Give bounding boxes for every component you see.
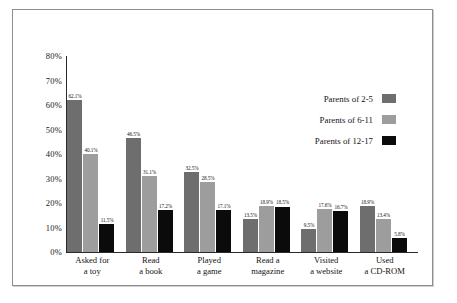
legend-item-2[interactable]: Parents of 6-11 (248, 109, 396, 130)
bar-value-label: 5.8% (394, 232, 404, 237)
bar-column: 40.1% (83, 56, 98, 252)
bar-column: 18.9% (360, 56, 375, 252)
bar-value-label: 46.5% (127, 132, 140, 137)
bar[interactable] (184, 172, 199, 252)
bar-group: 18.9%13.4%5.8% (360, 56, 419, 252)
x-axis-line (66, 252, 418, 253)
y-axis-tick: 0% (18, 247, 62, 257)
bar-column: 13.5% (243, 56, 258, 252)
bar-group: 13.5%18.9%18.5% (243, 56, 302, 252)
bar[interactable] (301, 229, 316, 252)
bar[interactable] (216, 210, 231, 252)
bar-value-label: 18.5% (276, 200, 289, 205)
bar-column: 17.6% (317, 56, 332, 252)
legend-label: Parents of 6-11 (320, 115, 373, 125)
bar-value-label: 17.6% (319, 203, 332, 208)
bar-value-label: 18.9% (361, 200, 374, 205)
legend-color-swatch (382, 94, 396, 103)
legend-label: Parents of 2-5 (324, 94, 373, 104)
bar-column: 31.1% (142, 56, 157, 252)
y-axis-tick: 40% (18, 149, 62, 159)
legend-label: Parents of 12-17 (315, 136, 373, 146)
bar-value-label: 32.5% (186, 166, 199, 171)
bar-column: 13.4% (376, 56, 391, 252)
bar-column: 17.2% (158, 56, 173, 252)
bar-value-label: 17.1% (218, 204, 231, 209)
bar-group: 32.5%28.5%17.1% (184, 56, 243, 252)
bar[interactable] (158, 210, 173, 252)
bar[interactable] (243, 219, 258, 252)
bar-value-label: 18.9% (260, 200, 273, 205)
bar[interactable] (142, 176, 157, 252)
bar-value-label: 13.4% (377, 213, 390, 218)
x-axis-category-labels: Asked fora toyReada bookPlayeda gameRead… (67, 255, 418, 277)
bar-value-label: 17.2% (159, 204, 172, 209)
bar-column: 5.8% (392, 56, 407, 252)
legend-item-1[interactable]: Parents of 2-5 (248, 88, 396, 109)
y-axis-tick: 70% (18, 76, 62, 86)
y-axis-tick: 80% (18, 51, 62, 61)
y-axis-tick: 60% (18, 100, 62, 110)
x-axis-category-2: Reada book (126, 255, 185, 277)
bar-value-label: 11.5% (101, 218, 114, 223)
bar-column: 11.5% (99, 56, 114, 252)
bar[interactable] (360, 206, 375, 252)
bar[interactable] (259, 206, 274, 252)
bar-group: 46.5%31.1%17.2% (126, 56, 185, 252)
bar-groups: 62.1%40.1%11.5%46.5%31.1%17.2%32.5%28.5%… (67, 56, 418, 252)
bar-column: 17.1% (216, 56, 231, 252)
bar[interactable] (126, 138, 141, 252)
bar-group: 62.1%40.1%11.5% (67, 56, 126, 252)
bar[interactable] (275, 207, 290, 252)
bar-value-label: 31.1% (143, 170, 156, 175)
bar[interactable] (392, 238, 407, 252)
y-axis-tick: 30% (18, 174, 62, 184)
bar[interactable] (333, 211, 348, 252)
chart-legend: Parents of 2-5Parents of 6-11Parents of … (248, 88, 396, 151)
legend-item-3[interactable]: Parents of 12-17 (248, 130, 396, 151)
bar[interactable] (99, 224, 114, 252)
y-axis-tick: 50% (18, 125, 62, 135)
y-axis-tick: 20% (18, 198, 62, 208)
bar[interactable] (200, 182, 215, 252)
chart-figure: 80%70%60%50%40%30%20%10%0% 62.1%40.1%11.… (0, 0, 457, 303)
x-axis-category-4: Read amagazine (243, 255, 302, 277)
bar-value-label: 40.1% (85, 148, 98, 153)
bar-column: 16.7% (333, 56, 348, 252)
bar-column: 18.5% (275, 56, 290, 252)
bar-column: 46.5% (126, 56, 141, 252)
y-axis-tick: 10% (18, 223, 62, 233)
bar[interactable] (67, 100, 82, 252)
bar[interactable] (376, 219, 391, 252)
bar-value-label: 9.5% (304, 223, 314, 228)
bar-column: 62.1% (67, 56, 82, 252)
legend-color-swatch (382, 115, 396, 124)
bar[interactable] (83, 154, 98, 252)
bar-value-label: 28.5% (202, 176, 215, 181)
bar-column: 9.5% (301, 56, 316, 252)
bar[interactable] (317, 209, 332, 252)
bar-column: 28.5% (200, 56, 215, 252)
x-axis-category-1: Asked fora toy (67, 255, 126, 277)
bar-value-label: 62.1% (69, 94, 82, 99)
bar-value-label: 16.7% (335, 205, 348, 210)
bar-value-label: 13.5% (244, 213, 257, 218)
y-axis-tick-labels: 80%70%60%50%40%30%20%10%0% (14, 56, 62, 252)
x-axis-category-5: Visiteda website (301, 255, 360, 277)
bar-column: 32.5% (184, 56, 199, 252)
x-axis-category-3: Playeda game (184, 255, 243, 277)
bar-column: 18.9% (259, 56, 274, 252)
bar-group: 9.5%17.6%16.7% (301, 56, 360, 252)
x-axis-category-6: Useda CD-ROM (360, 255, 419, 277)
legend-color-swatch (382, 136, 396, 145)
